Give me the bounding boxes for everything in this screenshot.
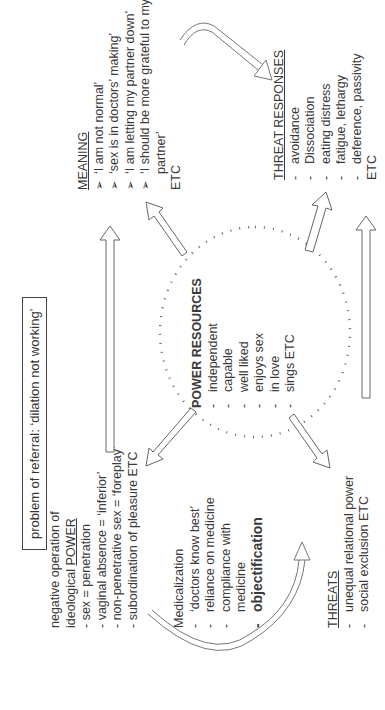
rotated-diagram-canvas: problem of referral: ‘dilation not worki… (0, 0, 385, 710)
curved-arrow-head-threat-responses (254, 60, 272, 80)
curved-arrow-head-threats (294, 542, 310, 560)
curved-arrow-meaning-to-threat-responses (184, 30, 258, 70)
diagram-connectors (0, 0, 385, 710)
power-resources-circle (160, 227, 350, 437)
arrow-circle-to-threats (289, 414, 330, 468)
arrow-to-threat-responses (356, 216, 376, 398)
curved-arrow-power-to-threats (148, 560, 305, 650)
arrow-to-meaning (100, 226, 120, 452)
arrow-circle-to-threat-responses (305, 192, 332, 252)
arrow-circle-to-meaning (146, 202, 187, 256)
arrow-circle-to-medicalization (146, 408, 196, 466)
